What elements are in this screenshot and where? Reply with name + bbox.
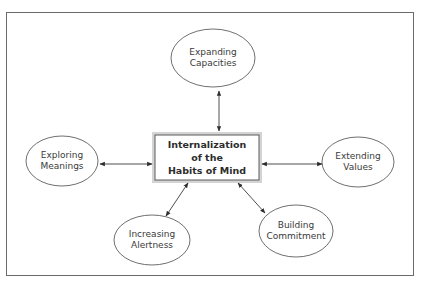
node-exploring-meanings: Exploring Meanings xyxy=(40,150,83,172)
node-label-line: Capacities xyxy=(189,58,237,69)
node-label-line: Increasing xyxy=(129,229,175,240)
center-label-line-2: of the xyxy=(168,151,247,164)
center-label-line-3: Habits of Mind xyxy=(168,164,247,177)
node-increasing-alertness: Increasing Alertness xyxy=(129,229,175,251)
arrow-center-increasing-alertness xyxy=(166,183,188,216)
node-label-line: Meanings xyxy=(40,161,83,172)
node-extending-values: Extending Values xyxy=(335,151,380,173)
node-label-line: Alertness xyxy=(129,240,175,251)
center-label: Internalization of the Habits of Mind xyxy=(168,138,247,177)
node-building-commitment: Building Commitment xyxy=(267,220,326,242)
node-expanding-capacities: Expanding Capacities xyxy=(189,47,237,69)
node-label-line: Expanding xyxy=(189,47,237,58)
node-label-line: Values xyxy=(335,162,380,173)
node-label-line: Commitment xyxy=(267,231,326,242)
center-label-line-1: Internalization xyxy=(168,138,247,151)
node-label-line: Exploring xyxy=(40,150,83,161)
node-label-line: Extending xyxy=(335,151,380,162)
arrow-center-building-commitment xyxy=(238,183,265,213)
node-label-line: Building xyxy=(267,220,326,231)
